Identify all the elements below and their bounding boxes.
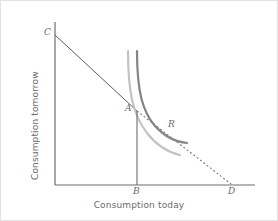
economics-diagram: Consumption today Consumption tomorrow C…	[0, 0, 278, 221]
budget-line-solid	[55, 35, 137, 111]
point-label-D: D	[228, 186, 235, 196]
x-axis-title: Consumption today	[0, 200, 278, 210]
point-label-B: B	[133, 186, 140, 196]
point-label-R: R	[168, 119, 175, 129]
y-axis-title: Consumption tomorrow	[30, 30, 40, 180]
point-label-C: C	[44, 27, 51, 37]
point-label-A: A	[125, 103, 132, 113]
